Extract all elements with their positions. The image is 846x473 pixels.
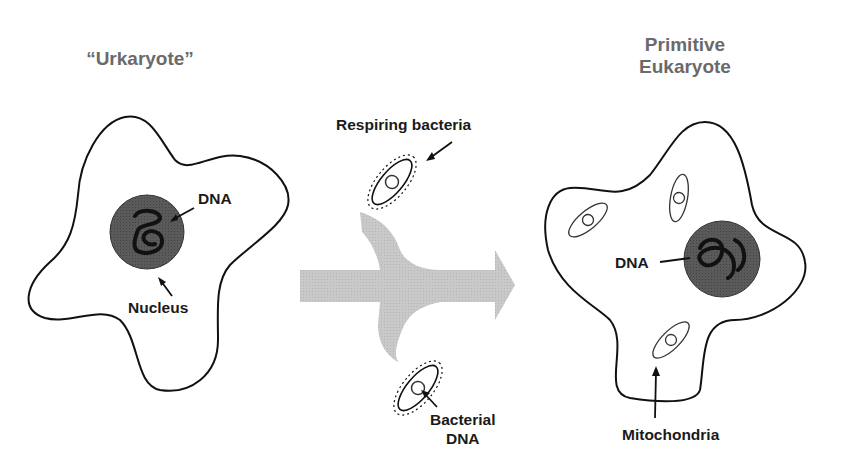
title-line-2: Eukaryote: [605, 56, 765, 78]
lower-branch-fill: [378, 302, 440, 362]
title-line-1: Primitive: [605, 34, 765, 56]
urkaryote-cell: [29, 116, 289, 390]
label-mitochondria: Mitochondria: [622, 425, 719, 444]
arrowhead-icon: [652, 366, 660, 376]
label-line-1: Bacterial: [430, 410, 495, 429]
mitochondria-pointer: [655, 372, 656, 418]
mitochondrion: [564, 198, 612, 243]
merge-arrow: [300, 212, 515, 362]
label-left-dna: DNA: [198, 189, 232, 208]
primitive-eukaryote-cell: [545, 122, 805, 418]
label-bacterial-dna: Bacterial DNA: [430, 410, 495, 448]
label-line-2: DNA: [430, 429, 495, 448]
mitochondrion: [666, 173, 691, 223]
upper-branch: [360, 212, 440, 270]
arrowhead-icon: [158, 277, 166, 286]
cell-membrane: [545, 122, 805, 401]
nucleus-icon: [684, 221, 760, 297]
respiring-bacterium: [359, 147, 424, 217]
label-nucleus: Nucleus: [128, 298, 188, 317]
mitochondrion: [648, 317, 695, 364]
label-respiring-bacteria: Respiring bacteria: [336, 115, 471, 134]
title-urkaryote: “Urkaryote”: [60, 48, 220, 70]
arrowhead-icon: [426, 152, 435, 161]
title-primitive-eukaryote: Primitive Eukaryote: [605, 34, 765, 78]
label-right-dna: DNA: [615, 253, 649, 272]
